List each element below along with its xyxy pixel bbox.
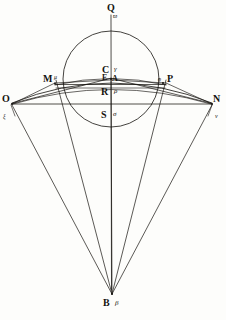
label-point-Q: Q [107, 3, 115, 13]
figure-canvas [0, 0, 226, 320]
segment-C-N [112, 79, 212, 104]
label-point-R-greek: ρ [114, 88, 117, 95]
label-point-O-greek: ξ [3, 113, 6, 119]
label-point-B-greek: β [115, 300, 119, 307]
point-dot-O [11, 103, 13, 105]
label-point-A: A [112, 75, 118, 83]
label-point-P: P [167, 74, 173, 84]
arc-inner-O-N [13, 90, 211, 105]
point-dot-P [162, 82, 164, 84]
point-dot-M [54, 83, 56, 85]
label-point-O: O [2, 94, 10, 104]
label-point-P-greek: ϱ [158, 76, 161, 82]
label-point-R: R [101, 87, 108, 97]
label-point-B: B [103, 298, 110, 308]
label-point-E: E [102, 74, 107, 82]
label-point-S: S [101, 110, 107, 120]
label-point-M: M [43, 74, 52, 84]
label-point-Q-greek: ϖ [113, 13, 117, 19]
ray-B-to-O [12, 105, 112, 294]
arc-outer-O-N [12, 83, 212, 103]
label-point-M-greek: μ [54, 74, 57, 80]
label-point-S-greek: σ [113, 111, 116, 118]
label-point-C-greek: γ [114, 66, 117, 73]
ray-B-to-N [112, 105, 212, 294]
label-point-N: N [213, 94, 220, 104]
geometric-figure: Q ϖ C γ E A M μ ϱ P R ρ S σ O ξ N ν B β [0, 0, 226, 320]
ray-B-to-P [112, 80, 166, 294]
label-point-N-greek: ν [215, 113, 218, 119]
point-dot-B [111, 293, 113, 295]
tick-at-N [208, 105, 212, 116]
